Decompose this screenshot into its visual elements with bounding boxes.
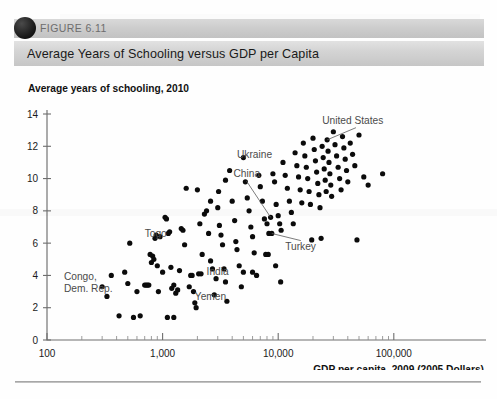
annotation-ukraine: Ukraine	[237, 149, 272, 160]
data-point	[276, 213, 281, 218]
y-axis-label: Average years of schooling, 2010	[28, 83, 189, 94]
data-point	[206, 231, 211, 236]
data-point	[328, 182, 333, 187]
data-point	[269, 231, 274, 236]
data-point	[317, 205, 322, 210]
data-point	[250, 270, 255, 275]
data-point	[208, 258, 213, 263]
data-point	[177, 268, 182, 273]
data-point	[260, 199, 265, 204]
y-tick-label-14: 14	[27, 109, 39, 120]
data-point	[352, 163, 357, 168]
data-point	[345, 179, 350, 184]
data-point	[356, 132, 361, 137]
data-point	[289, 210, 294, 215]
y-tick-label-0: 0	[32, 335, 38, 346]
data-point	[361, 174, 366, 179]
data-point	[164, 216, 169, 221]
data-point	[334, 153, 339, 158]
data-point	[319, 236, 324, 241]
data-point	[302, 153, 307, 158]
data-point	[274, 202, 279, 207]
data-point	[233, 239, 238, 244]
data-point	[341, 145, 346, 150]
data-point	[321, 155, 326, 160]
data-point	[182, 242, 187, 247]
annotation-yemen: Yemen	[195, 291, 226, 302]
data-point	[237, 263, 242, 268]
annotation-congo-dem-rep-line1: Congo,	[64, 271, 97, 282]
circle-bullet-icon	[14, 17, 36, 39]
data-point	[218, 232, 223, 237]
data-point	[348, 140, 353, 145]
data-point	[299, 200, 304, 205]
annotation-togo: Togo	[145, 228, 167, 239]
data-point	[234, 247, 239, 252]
data-point	[264, 221, 269, 226]
figure-title: Average Years of Schooling versus GDP pe…	[14, 47, 319, 61]
data-point	[175, 287, 180, 292]
data-point	[160, 270, 165, 275]
data-point	[296, 174, 301, 179]
data-point	[252, 250, 257, 255]
data-point	[258, 184, 263, 189]
figure-title-bar: Average Years of Schooling versus GDP pe…	[14, 41, 484, 66]
data-point	[305, 176, 310, 181]
data-point	[344, 168, 349, 173]
data-point	[116, 313, 121, 318]
data-point	[327, 171, 332, 176]
data-point	[315, 181, 320, 186]
data-point	[216, 189, 221, 194]
data-point	[316, 192, 321, 197]
x-axis-label: GDP per capita, 2009 (2005 Dollars)	[313, 364, 484, 370]
data-point	[239, 284, 244, 289]
x-tick-label-100000: 100,000	[376, 348, 413, 359]
data-point	[241, 270, 246, 275]
data-point	[340, 134, 345, 139]
data-point	[138, 313, 143, 318]
data-point	[200, 252, 205, 257]
data-point	[104, 294, 109, 299]
data-point	[250, 234, 255, 239]
data-point	[354, 237, 359, 242]
data-point	[350, 152, 355, 157]
data-point	[273, 263, 278, 268]
data-point	[306, 189, 311, 194]
data-point	[125, 281, 130, 286]
data-point	[151, 257, 156, 262]
data-point	[246, 208, 251, 213]
data-point	[313, 158, 318, 163]
data-point	[336, 165, 341, 170]
data-point	[187, 284, 192, 289]
data-point	[198, 271, 203, 276]
data-point	[208, 199, 213, 204]
data-point	[380, 171, 385, 176]
data-point	[279, 228, 284, 233]
data-point	[287, 199, 292, 204]
data-point	[220, 242, 225, 247]
data-point	[223, 178, 228, 183]
data-point	[232, 218, 237, 223]
data-point	[304, 165, 309, 170]
data-point	[343, 157, 348, 162]
data-point	[131, 315, 136, 320]
data-point	[298, 187, 303, 192]
data-point	[165, 315, 170, 320]
data-point	[254, 273, 259, 278]
x-tick-label-1000: 1,000	[150, 348, 175, 359]
data-point	[230, 199, 235, 204]
data-point	[366, 182, 371, 187]
data-point	[180, 228, 185, 233]
data-point	[168, 265, 173, 270]
data-point	[270, 171, 275, 176]
annotation-turkey: Turkey	[285, 241, 317, 252]
annotation-china: China	[233, 168, 260, 179]
data-point	[227, 168, 232, 173]
annotation-united-states: United States	[322, 115, 383, 126]
data-point	[277, 221, 282, 226]
data-point	[323, 178, 328, 183]
scatter-chart: Average years of schooling, 201002468101…	[0, 70, 497, 370]
data-point	[308, 202, 313, 207]
data-point	[338, 187, 343, 192]
x-tick-label-10000: 10,000	[263, 348, 294, 359]
